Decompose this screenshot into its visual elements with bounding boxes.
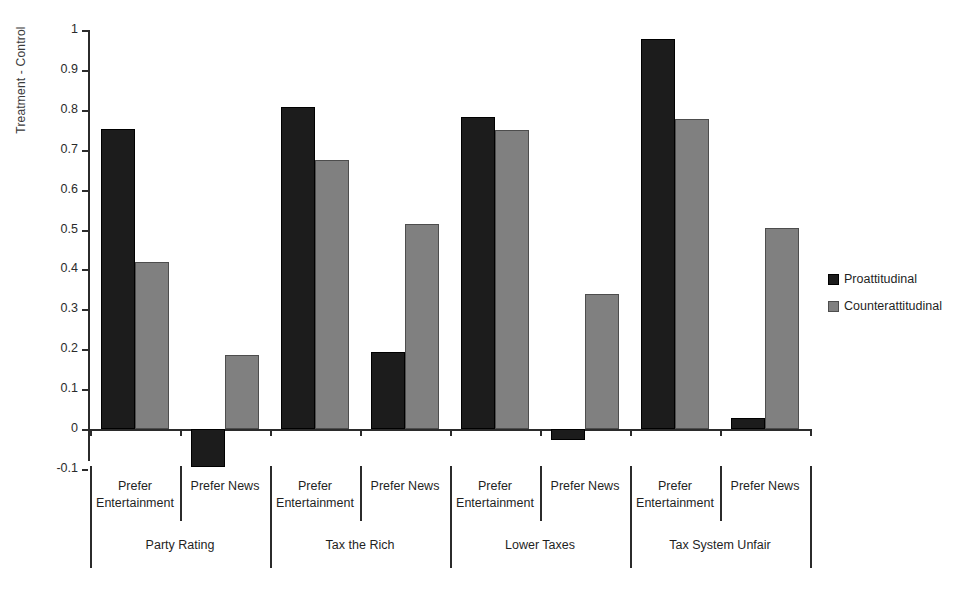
bar-counterattitudinal — [495, 130, 529, 429]
y-tick-mark — [82, 349, 88, 351]
y-tick-label: 0.2 — [40, 341, 78, 355]
y-tick-label: 0 — [40, 421, 78, 435]
x-tick-mark — [810, 429, 812, 436]
bar-proattitudinal — [731, 418, 765, 429]
bar-proattitudinal — [461, 117, 495, 429]
bar-proattitudinal — [371, 352, 405, 429]
group-label: Lower Taxes — [450, 538, 630, 552]
y-tick-label: 0.6 — [40, 182, 78, 196]
y-tick-mark — [82, 389, 88, 391]
legend-swatch-icon — [828, 301, 839, 312]
subgroup-label: Prefer News — [540, 478, 630, 495]
y-tick-mark — [82, 429, 88, 431]
bar-counterattitudinal — [405, 224, 439, 429]
bar-counterattitudinal — [225, 355, 259, 429]
x-tick-mark — [180, 429, 182, 436]
bar-proattitudinal — [191, 429, 225, 467]
legend-swatch-icon — [828, 274, 839, 285]
group-label: Tax System Unfair — [630, 538, 810, 552]
y-tick-mark — [82, 309, 88, 311]
legend-label: Counterattitudinal — [844, 299, 942, 313]
y-tick-label: 0.4 — [40, 261, 78, 275]
group-label: Tax the Rich — [270, 538, 450, 552]
y-tick-mark — [82, 30, 88, 32]
group-separator — [810, 466, 812, 568]
y-tick-mark — [82, 150, 88, 152]
subgroup-label: Prefer News — [360, 478, 450, 495]
x-tick-mark — [720, 429, 722, 436]
bar-counterattitudinal — [315, 160, 349, 429]
subgroup-label: Prefer Entertainment — [270, 478, 360, 512]
legend: Proattitudinal Counterattitudinal — [828, 272, 942, 326]
y-tick-label: 0.3 — [40, 301, 78, 315]
subgroup-label: Prefer News — [720, 478, 810, 495]
bar-counterattitudinal — [135, 262, 169, 429]
y-tick-label: 0.1 — [40, 381, 78, 395]
x-tick-mark — [360, 429, 362, 436]
y-tick-label: 0.5 — [40, 222, 78, 236]
x-tick-mark — [90, 429, 92, 436]
y-axis-line — [88, 30, 90, 461]
y-axis-title: Treatment - Control — [14, 0, 34, 170]
y-tick-mark — [82, 190, 88, 192]
bar-counterattitudinal — [675, 119, 709, 429]
bar-chart: Treatment - Control 10.90.80.70.60.50.40… — [0, 0, 973, 594]
bar-proattitudinal — [551, 429, 585, 440]
x-tick-mark — [270, 429, 272, 436]
group-label: Party Rating — [90, 538, 270, 552]
x-tick-mark — [450, 429, 452, 436]
y-tick-label: 1 — [40, 22, 78, 36]
bar-counterattitudinal — [765, 228, 799, 429]
x-tick-mark — [630, 429, 632, 436]
y-tick-mark — [82, 110, 88, 112]
y-tick-label: 0.7 — [40, 142, 78, 156]
y-tick-mark — [82, 230, 88, 232]
subgroup-label: Prefer Entertainment — [450, 478, 540, 512]
y-tick-mark — [82, 269, 88, 271]
y-tick-mark — [82, 469, 88, 471]
y-tick-label: 0.8 — [40, 102, 78, 116]
x-tick-mark — [540, 429, 542, 436]
legend-label: Proattitudinal — [844, 272, 917, 286]
y-tick-label: -0.1 — [40, 461, 78, 475]
legend-item-counterattitudinal[interactable]: Counterattitudinal — [828, 299, 942, 313]
bar-counterattitudinal — [585, 294, 619, 429]
legend-item-proattitudinal[interactable]: Proattitudinal — [828, 272, 942, 286]
bar-proattitudinal — [101, 129, 135, 429]
y-tick-label: 0.9 — [40, 62, 78, 76]
subgroup-label: Prefer Entertainment — [630, 478, 720, 512]
subgroup-label: Prefer News — [180, 478, 270, 495]
y-tick-mark — [82, 70, 88, 72]
subgroup-label: Prefer Entertainment — [90, 478, 180, 512]
bar-proattitudinal — [641, 39, 675, 429]
bar-proattitudinal — [281, 107, 315, 429]
